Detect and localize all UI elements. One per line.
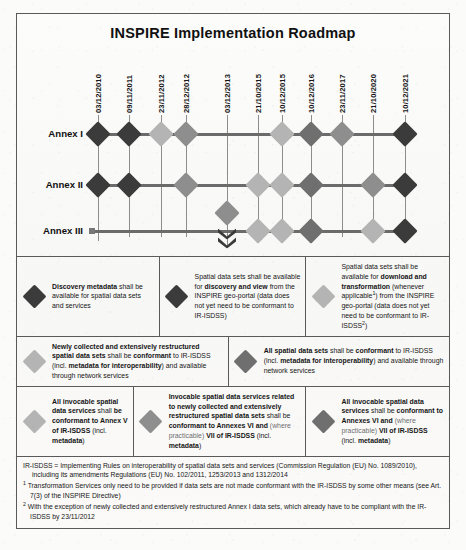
timeline-milestone-diamond [298, 121, 323, 146]
annex-row-label: Annex I [25, 128, 83, 139]
timeline-milestone-diamond [360, 172, 385, 197]
timeline-date-label: 03/12/2010 [94, 55, 103, 113]
legend-grid: Discovery metadata shall be available fo… [17, 256, 449, 456]
timeline-milestone-diamond [148, 121, 173, 146]
legend-item-text: Spatial data sets shall be available for… [195, 272, 301, 321]
legend-item-text: All invocable spatial data services shal… [52, 397, 128, 446]
timeline-milestone-diamond [329, 121, 354, 146]
timeline-milestone-diamond [245, 218, 270, 243]
legend-item: All invocable spatial data services shal… [306, 387, 449, 456]
timeline-date-label: 10/12/2021 [401, 55, 410, 113]
timeline-milestone-diamond [214, 200, 239, 225]
legend-row: Discovery metadata shall be available fo… [17, 257, 449, 337]
legend-item: All invocable spatial data services shal… [17, 387, 134, 456]
footnote-item: 1 Transformation Services only need to b… [23, 481, 443, 501]
legend-item-text: Newly collected and extensively restruct… [52, 342, 223, 381]
legend-swatch-wrap [138, 413, 164, 430]
timeline-date-label: 10/12/2016 [307, 55, 316, 113]
legend-item-text: Discovery metadata shall be available fo… [52, 282, 154, 311]
timeline-milestone-diamond [298, 172, 323, 197]
timeline-milestone-diamond [245, 172, 270, 197]
legend-diamond-icon [311, 409, 335, 433]
roadmap-poster: INSPIRE Implementation Roadmap 03/12/201… [16, 13, 450, 529]
legend-diamond-icon [22, 409, 46, 433]
legend-swatch-wrap [164, 288, 190, 305]
legend-item: Discovery metadata shall be available fo… [17, 257, 160, 336]
timeline-milestone-diamond [116, 172, 141, 197]
legend-diamond-icon [165, 284, 189, 308]
timeline-chart: 03/12/201009/11/201123/11/201228/12/2012… [17, 41, 449, 256]
legend-row: All invocable spatial data services shal… [17, 387, 449, 456]
annex-row-line [98, 133, 405, 136]
timeline-milestone-diamond [173, 121, 198, 146]
legend-item-text: Invocable spatial data services related … [169, 392, 301, 451]
timeline-date-label: 23/11/2017 [338, 55, 347, 113]
timeline-milestone-diamond [298, 218, 323, 243]
page-title: INSPIRE Implementation Roadmap [17, 25, 449, 41]
annex-row-label: Annex II [25, 179, 83, 190]
legend-diamond-icon [234, 349, 258, 373]
legend-swatch-wrap [310, 413, 336, 430]
legend-item-text: All spatial data sets shall be conforman… [264, 346, 444, 375]
legend-item: Newly collected and extensively restruct… [17, 337, 229, 386]
timeline-milestone-diamond [360, 218, 385, 243]
legend-swatch-wrap [21, 288, 47, 305]
legend-diamond-icon [139, 409, 163, 433]
legend-row: Newly collected and extensively restruct… [17, 337, 449, 387]
timeline-milestone-diamond [85, 172, 110, 197]
legend-item: Spatial data sets shall be available for… [160, 257, 307, 336]
timeline-date-label: 10/12/2015 [278, 55, 287, 113]
timeline-date-label: 21/10/2015 [254, 55, 263, 113]
timeline-milestone-diamond [116, 121, 141, 146]
legend-diamond-icon [22, 284, 46, 308]
timeline-milestone-diamond [392, 172, 417, 197]
legend-swatch-wrap [21, 413, 47, 430]
footnote-definition: IR-ISDSS = Implementing Rules on interop… [23, 461, 443, 481]
legend-swatch-wrap [21, 353, 47, 370]
footnotes-block: IR-ISDSS = Implementing Rules on interop… [17, 456, 449, 528]
timeline-milestone-diamond [85, 121, 110, 146]
legend-item-text: All invocable spatial data services shal… [341, 397, 444, 446]
annex-row-label: Annex III [25, 225, 83, 236]
legend-diamond-icon [22, 349, 46, 373]
timeline-date-label: 23/11/2012 [157, 55, 166, 113]
timeline-milestone-diamond [269, 218, 294, 243]
legend-swatch-wrap [233, 353, 259, 370]
timeline-date-label: 09/11/2011 [125, 55, 134, 113]
legend-item-text: Spatial data sets shall be available for… [341, 262, 444, 331]
legend-swatch-wrap [310, 288, 336, 305]
timeline-milestone-diamond [269, 172, 294, 197]
legend-item: All spatial data sets shall be conforman… [229, 337, 449, 386]
timeline-milestone-diamond [269, 121, 294, 146]
legend-item: Spatial data sets shall be available for… [306, 257, 449, 336]
footnote-item: 2 With the exception of newly collected … [23, 502, 443, 522]
timeline-date-label: 28/12/2012 [182, 55, 191, 113]
timeline-start-marker [89, 228, 95, 234]
timeline-milestone-diamond [392, 121, 417, 146]
timeline-milestone-diamond [173, 172, 198, 197]
timeline-chevron-marker [217, 235, 237, 246]
timeline-date-label: 03/12/2013 [223, 55, 232, 113]
legend-diamond-icon [311, 284, 335, 308]
timeline-date-label: 21/10/2020 [369, 55, 378, 113]
timeline-milestone-diamond [392, 218, 417, 243]
legend-item: Invocable spatial data services related … [134, 387, 307, 456]
